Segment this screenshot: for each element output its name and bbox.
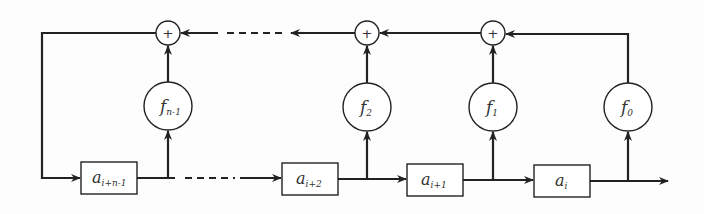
feedback-line	[42, 33, 156, 178]
adder-s2-label: +	[488, 26, 499, 41]
multiplier-m3	[604, 83, 652, 131]
wire	[506, 34, 628, 83]
multiplier-m2	[469, 83, 517, 131]
adder-s1-label: +	[362, 26, 373, 41]
diagram-svg: + + + fn-1 f2 f1 f0 ai+n-1 ai+2 ai+1 ai	[0, 0, 704, 214]
multiplier-m1	[343, 83, 391, 131]
adder-s0-label: +	[163, 26, 174, 41]
lfsr-diagram: + + + fn-1 f2 f1 f0 ai+n-1 ai+2 ai+1 ai	[0, 0, 704, 214]
multiplier-m0	[144, 82, 192, 130]
